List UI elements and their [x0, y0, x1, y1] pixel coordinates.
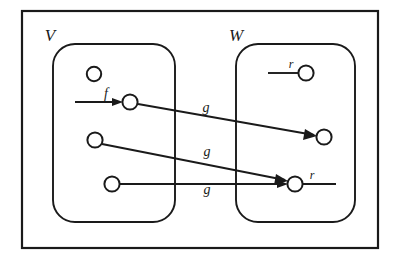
- edge-g-middle-line: [102, 144, 285, 180]
- edge-g-upper-arrowhead: [303, 129, 317, 140]
- map-label-f: f: [104, 86, 110, 101]
- edge-f-arrowhead: [112, 98, 123, 106]
- set-label-v: V: [45, 26, 58, 45]
- map-label-g-middle: g: [204, 144, 211, 159]
- node-v-f-target: [122, 94, 137, 109]
- map-label-g-lower: g: [204, 182, 211, 197]
- set-box-w: [236, 44, 355, 222]
- set-mapping-diagram: V W f g g g r r: [0, 0, 402, 265]
- elem-label-r-top: r: [289, 57, 294, 71]
- node-v-bottom: [104, 176, 119, 191]
- node-w-upper-target: [316, 129, 331, 144]
- node-w-top-r: [298, 65, 313, 80]
- node-v-middle: [87, 132, 102, 147]
- edge-g-upper-line: [138, 104, 314, 135]
- diagram-canvas: V W f g g g r r: [0, 0, 402, 265]
- set-label-w: W: [229, 26, 245, 45]
- node-v-top-isolated: [87, 67, 101, 81]
- set-box-v: [53, 44, 175, 222]
- map-label-g-upper: g: [203, 100, 210, 115]
- node-w-lower-r: [287, 176, 302, 191]
- elem-label-r-lower: r: [310, 168, 315, 182]
